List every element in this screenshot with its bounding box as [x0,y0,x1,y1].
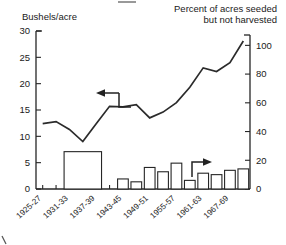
left-axis-title: Bushels/acre [22,11,77,22]
bar [158,172,169,189]
x-axis-tick-label: 1967-69 [202,194,231,221]
bar-series [64,152,249,189]
x-axis-tick-label: 1955-57 [148,194,177,221]
left-tick-label: 20 [19,78,30,89]
bar [171,163,182,189]
left-tick-label: 10 [19,131,30,142]
bar [118,179,129,189]
x-axis-tick-label: 1931-33 [41,194,70,221]
x-axis-tick-label: 1961-63 [175,194,204,221]
bar [184,180,195,189]
x-axis-tick-label: 1925-27 [15,194,44,221]
page-edge-artifacts [2,236,6,244]
bar [144,167,155,189]
bar [238,169,249,189]
right-axis-title-line1: Percent of acres seeded [174,3,277,14]
right-tick-label: 0 [256,183,261,194]
left-tick-label: 5 [25,157,30,168]
left-axis-arrow-icon [96,89,131,107]
right-tick-label: 40 [256,126,267,137]
left-tick-label: 30 [19,25,30,36]
left-tick-label: 25 [19,52,30,63]
right-tick-label: 100 [256,40,272,51]
left-axis-ticks: 051015202530 [19,25,41,194]
left-tick-label: 15 [19,104,30,115]
x-axis-tick-label: 1937-39 [68,194,97,221]
right-axis-title-line2: but not harvested [204,14,277,25]
line-series [43,41,244,142]
bar [211,175,222,189]
x-axis-tick-label: 1943-45 [95,194,124,221]
x-axis-tick-label: 1949-51 [122,194,151,221]
right-tick-label: 80 [256,68,267,79]
right-tick-label: 60 [256,97,267,108]
bar [225,170,236,189]
bar [198,173,209,189]
x-axis-category-labels: 1925-271931-331937-391943-451949-511955-… [15,194,231,221]
bar [131,182,142,189]
bar [64,152,101,189]
left-tick-label: 0 [25,183,30,194]
right-tick-label: 20 [256,155,267,166]
yield-and-abandonment-chart: Bushels/acre Percent of acres seeded but… [0,0,286,245]
